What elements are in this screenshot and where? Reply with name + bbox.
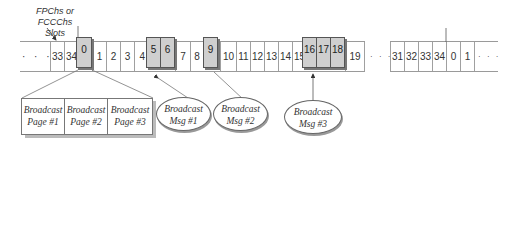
msg-2-line2: Msg #2	[214, 115, 267, 127]
page-2-line1: Broadcast	[65, 104, 107, 116]
msg-2-line1: Broadcast	[214, 103, 267, 115]
page-2-line2: Page #2	[65, 116, 107, 128]
broadcast-page-3: Broadcast Page #3	[107, 98, 153, 135]
broadcast-page-1: Broadcast Page #1	[21, 98, 65, 135]
broadcast-msg-1: Broadcast Msg #1	[156, 97, 211, 131]
msg-3-line2: Msg #3	[285, 118, 341, 130]
broadcast-msg-3: Broadcast Msg #3	[284, 100, 342, 134]
msg-1-line2: Msg #1	[157, 115, 210, 127]
msg-1-line1: Broadcast	[157, 103, 210, 115]
page-1-line2: Page #1	[22, 116, 64, 128]
broadcast-page-2: Broadcast Page #2	[64, 98, 108, 135]
msg-3-line1: Broadcast	[285, 106, 341, 118]
page-3-line1: Broadcast	[108, 104, 152, 116]
page-3-line2: Page #3	[108, 116, 152, 128]
page-1-line1: Broadcast	[22, 104, 64, 116]
broadcast-msg-2: Broadcast Msg #2	[213, 97, 268, 131]
